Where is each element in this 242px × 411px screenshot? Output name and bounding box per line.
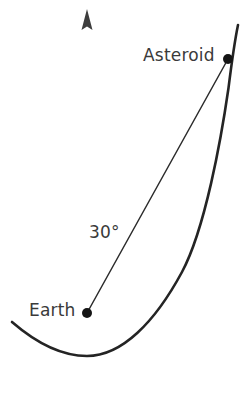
- earth-label: Earth: [29, 302, 76, 319]
- asteroid-label: Asteroid: [143, 47, 215, 64]
- vertical-axis: [82, 9, 93, 399]
- asteroid-point-marker: [223, 54, 233, 64]
- earth-asteroid-line: [87, 59, 228, 313]
- diagram-canvas: Asteroid Earth 30°: [0, 0, 242, 411]
- angle-label: 30°: [89, 224, 120, 241]
- earth-point-marker: [82, 308, 92, 318]
